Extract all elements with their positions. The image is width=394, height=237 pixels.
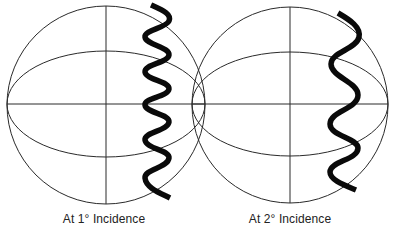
sphere-2-label: At 2° Incidence xyxy=(210,212,370,226)
wave-1-helix xyxy=(145,5,170,198)
incidence-diagram xyxy=(0,0,394,237)
sphere-1 xyxy=(7,6,205,204)
sphere-1-label: At 1° Incidence xyxy=(24,212,184,226)
wave-2-helix xyxy=(330,13,359,190)
